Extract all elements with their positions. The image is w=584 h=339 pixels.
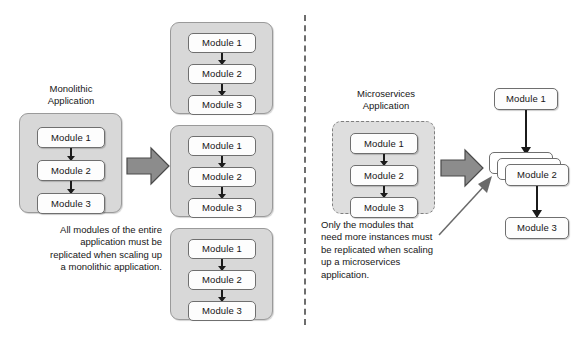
replica-1-module-1: Module 1	[188, 33, 256, 53]
replica-2-connector-1	[218, 156, 227, 167]
monolithic-caption: All modules of the entire application mu…	[20, 224, 162, 274]
replica-1-connector-2	[218, 84, 227, 95]
monolithic-application-title: Monolithic Application	[28, 83, 114, 107]
replica-1-connector-1	[218, 53, 227, 64]
microservices-caption-line-3: be replicated when scaling	[321, 244, 453, 256]
replica-1-module-3: Module 3	[188, 95, 256, 115]
microservices-source-connector-1	[380, 154, 389, 165]
monolithic-caption-line-1: All modules of the entire	[20, 224, 162, 236]
monolithic-title-line-2: Application	[28, 95, 114, 107]
replica-3-module-1: Module 1	[188, 239, 256, 259]
monolithic-replica-2: Module 1 Module 2 Module 3	[170, 125, 273, 217]
replica-2-connector-2	[218, 187, 227, 198]
panel-divider	[304, 15, 306, 325]
replica-3-module-2: Module 2	[188, 270, 256, 290]
microservices-caption-line-5: application.	[321, 269, 453, 281]
replica-2-module-1: Module 1	[188, 136, 256, 156]
monolithic-title-line-1: Monolithic	[28, 83, 114, 95]
microservices-source-connector-2	[380, 186, 389, 197]
monolithic-source-container: Module 1 Module 2 Module 3	[19, 113, 122, 213]
microservices-caption: Only the modules that need more instance…	[321, 219, 453, 281]
monolithic-caption-line-4: a monolithic application.	[20, 261, 162, 273]
scaled-module-1: Module 1	[494, 88, 558, 110]
replica-3-connector-1	[218, 259, 227, 270]
microservices-caption-line-1: Only the modules that	[321, 219, 453, 231]
scaled-module-2-instance-1: Module 2	[505, 164, 569, 186]
microservices-caption-line-2: need more instances must	[321, 231, 453, 243]
scaled-module-3: Module 3	[505, 217, 569, 239]
microservices-title-line-1: Microservices	[340, 88, 432, 100]
scaled-connector-2-to-3	[532, 186, 543, 217]
monolithic-source-connector-2	[67, 181, 76, 193]
monolithic-caption-line-3: replicated when scaling up	[20, 249, 162, 261]
replica-2-module-3: Module 3	[188, 198, 256, 218]
monolithic-replica-3: Module 1 Module 2 Module 3	[170, 228, 273, 320]
microservices-source-module-2: Module 2	[350, 165, 418, 186]
scaled-connector-1-to-2	[521, 110, 532, 154]
replica-3-module-3: Module 3	[188, 301, 256, 321]
monolithic-source-module-1: Module 1	[37, 127, 105, 148]
microservices-application-title: Microservices Application	[340, 88, 432, 112]
microservices-caption-line-4: up a microservices	[321, 256, 453, 268]
microservices-source-module-3: Module 3	[350, 197, 418, 218]
microservices-title-line-2: Application	[340, 100, 432, 112]
monolithic-caption-line-2: application must be	[20, 236, 162, 248]
diagram-canvas: Monolithic Application Module 1 Module 2…	[0, 0, 584, 339]
monolithic-source-connector-1	[67, 148, 76, 160]
monolithic-source-module-3: Module 3	[37, 193, 105, 214]
microservices-source-module-1: Module 1	[350, 133, 418, 154]
replica-1-module-2: Module 2	[188, 64, 256, 84]
monolithic-replica-1: Module 1 Module 2 Module 3	[170, 22, 273, 114]
microservices-source-container: Module 1 Module 2 Module 3	[332, 121, 435, 214]
monolithic-scale-arrow-icon	[126, 146, 170, 186]
replica-2-module-2: Module 2	[188, 167, 256, 187]
replica-3-connector-2	[218, 290, 227, 301]
monolithic-source-module-2: Module 2	[37, 160, 105, 181]
